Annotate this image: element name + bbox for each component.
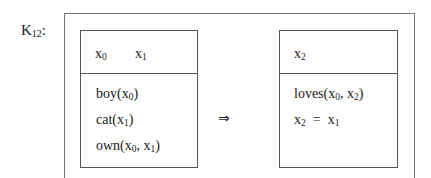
drs-label-colon: : <box>42 22 46 38</box>
antecedent-universe: x0 x1 <box>81 31 197 74</box>
implication-arrow-icon: ⇒ <box>218 110 230 126</box>
condition-equality: x2 = x1 <box>294 112 339 128</box>
drs-label-name: K <box>21 22 32 38</box>
condition-loves: loves(x0, x2) <box>294 86 363 102</box>
condition-cat: cat(x1) <box>96 112 133 128</box>
drs-label: K12: <box>21 22 46 39</box>
condition-boy: boy(x0) <box>96 86 138 102</box>
antecedent-box: x0 x1 boy(x0) cat(x1) own(x0, x1) <box>80 30 198 168</box>
universe-var: x2 <box>294 46 306 62</box>
drs-label-subscript: 12 <box>32 28 42 39</box>
universe-var: x0 <box>95 46 107 62</box>
consequent-universe: x2 <box>280 31 397 74</box>
universe-var: x1 <box>135 46 147 62</box>
condition-own: own(x0, x1) <box>96 138 160 154</box>
consequent-box: x2 loves(x0, x2) x2 = x1 <box>279 30 398 168</box>
